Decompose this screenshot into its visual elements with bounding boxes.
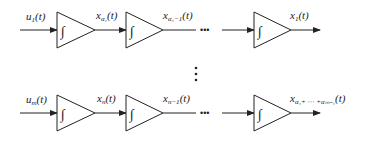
integrator-chain-diagram: u1(t) ∫ xα₁(t) ∫ xα₁−1(t) ••• ∫ x1(t) bbox=[0, 0, 371, 144]
horizontal-ellipsis: ••• bbox=[200, 25, 209, 35]
vertical-ellipsis bbox=[195, 67, 198, 82]
row-1: u1(t) ∫ xα₁(t) ∫ xα₁−1(t) ••• ∫ x1(t) bbox=[20, 9, 320, 48]
input-label-um: um(t) bbox=[26, 93, 47, 107]
signal-label-xn-minus-1: xn−1(t) bbox=[162, 92, 190, 106]
row-m: um(t) ∫ xn(t) ∫ xn−1(t) ••• ∫ xα₁+ ⋯ +αₘ… bbox=[20, 92, 346, 131]
signal-label-x-alpha1-minus-1: xα₁−1(t) bbox=[162, 9, 193, 23]
output-label-x1: x1(t) bbox=[289, 9, 309, 23]
input-label-u1: u1(t) bbox=[26, 10, 46, 24]
signal-label-x-alpha1: xα₁(t) bbox=[95, 9, 118, 23]
horizontal-ellipsis: ••• bbox=[200, 108, 209, 118]
output-label-x-sum-alpha: xα₁+ ⋯ +αₘ₋₁(t) bbox=[289, 92, 346, 106]
signal-label-xn: xn(t) bbox=[96, 92, 116, 106]
